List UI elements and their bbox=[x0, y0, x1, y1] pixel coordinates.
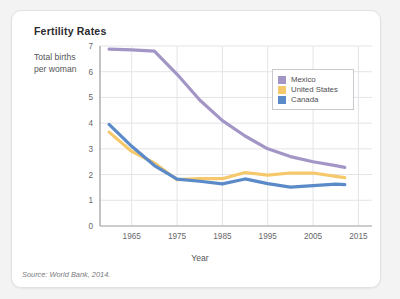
legend-swatch-mexico bbox=[278, 76, 286, 84]
y-tick-label: 1 bbox=[88, 196, 93, 205]
legend-swatch-united-states bbox=[278, 86, 286, 94]
x-tick-label: 1965 bbox=[123, 232, 142, 241]
legend-swatch-canada bbox=[278, 96, 286, 104]
y-tick-label: 0 bbox=[88, 222, 93, 231]
y-tick-label: 4 bbox=[88, 119, 93, 128]
x-tick-label: 2015 bbox=[349, 232, 368, 241]
chart-legend: Mexico United States Canada bbox=[272, 69, 354, 110]
x-tick-label: 1975 bbox=[168, 232, 187, 241]
legend-item-united-states: United States bbox=[278, 85, 348, 94]
source-note: Source: World Bank, 2014. bbox=[22, 270, 110, 279]
legend-label-mexico: Mexico bbox=[291, 75, 316, 84]
legend-label-united-states: United States bbox=[291, 85, 338, 94]
y-tick-label: 5 bbox=[88, 93, 93, 102]
y-tick-label: 2 bbox=[88, 171, 93, 180]
y-tick-label: 3 bbox=[88, 145, 93, 154]
x-tick-label: 2005 bbox=[304, 232, 323, 241]
y-tick-label: 6 bbox=[88, 68, 93, 77]
x-axis-label: Year bbox=[0, 253, 400, 263]
legend-item-canada: Canada bbox=[278, 95, 348, 104]
legend-label-canada: Canada bbox=[291, 95, 318, 104]
x-tick-label: 1985 bbox=[213, 232, 232, 241]
legend-item-mexico: Mexico bbox=[278, 75, 348, 84]
y-tick-label: 7 bbox=[88, 42, 93, 51]
x-tick-label: 1995 bbox=[259, 232, 278, 241]
